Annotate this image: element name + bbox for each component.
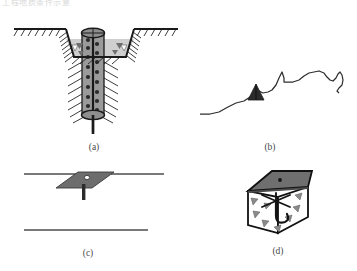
box-left-face bbox=[248, 191, 278, 233]
header-partial-text: 工程地质条件示意 bbox=[2, 0, 70, 7]
panel-d-drawing bbox=[240, 165, 330, 243]
box-right-face bbox=[278, 187, 308, 233]
hatch-ground-left bbox=[14, 29, 60, 36]
figure-container: 工程地质条件示意 bbox=[0, 0, 357, 271]
terrain-profile-line bbox=[200, 71, 343, 114]
panel-c bbox=[20, 160, 170, 240]
hatch-ground-right bbox=[137, 29, 176, 36]
plate-stem bbox=[82, 184, 85, 200]
caption-a: (a) bbox=[74, 142, 114, 152]
panel-a bbox=[8, 10, 183, 140]
panel-a-drawing bbox=[8, 10, 183, 140]
panel-c-drawing bbox=[20, 160, 170, 240]
lid-center-dot bbox=[278, 178, 282, 182]
panel-b bbox=[196, 70, 356, 130]
caption-c: (c) bbox=[68, 248, 108, 258]
plate-hole bbox=[84, 175, 89, 179]
caption-b: (b) bbox=[250, 142, 290, 152]
caption-d: (d) bbox=[258, 246, 298, 256]
panel-d bbox=[240, 165, 330, 243]
panel-b-drawing bbox=[196, 70, 356, 130]
